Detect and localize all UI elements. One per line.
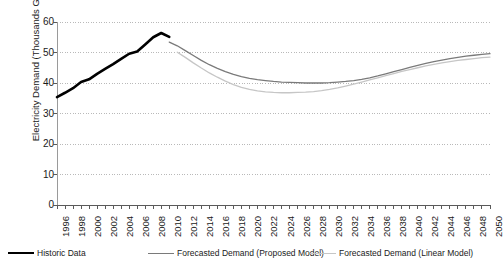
x-axis-tick-label: 2022 <box>269 216 279 237</box>
x-axis-tick-label: 2032 <box>350 216 360 237</box>
x-axis-tick-label: 2050 <box>494 216 504 237</box>
legend-item: Historic Data <box>8 246 86 260</box>
x-axis-tick-label: 2006 <box>141 216 151 237</box>
x-axis-tick-label: 2012 <box>189 216 199 237</box>
chart-legend: Historic DataForecasted Demand (Proposed… <box>0 246 497 264</box>
x-axis-tick-label: 2008 <box>157 216 167 237</box>
x-axis-tick-label: 2048 <box>478 216 488 237</box>
x-axis-tick-label: 2010 <box>173 216 183 237</box>
x-axis-tick-label: 2030 <box>334 216 344 237</box>
x-axis-tick-label: 1998 <box>77 216 87 237</box>
x-axis-tick-label: 1996 <box>61 216 71 237</box>
x-axis-tick-label: 2036 <box>382 216 392 237</box>
legend-label: Historic Data <box>37 248 86 258</box>
x-axis-tick-label: 2042 <box>430 216 440 237</box>
x-axis-tick-label: 2000 <box>93 216 103 237</box>
x-axis-tick-label: 2028 <box>318 216 328 237</box>
x-axis-tick-label: 2034 <box>366 216 376 237</box>
x-axis-tick-label: 2046 <box>462 216 472 237</box>
x-axis-tick-label: 2016 <box>221 216 231 237</box>
legend-label: Forecasted Demand (Proposed Model) <box>177 248 324 258</box>
x-axis-tick-label: 2002 <box>109 216 119 237</box>
legend-label: Forecasted Demand (Linear Model) <box>339 248 473 258</box>
x-axis-tick-label: 2014 <box>205 216 215 237</box>
x-axis-tick-label: 2004 <box>125 216 135 237</box>
x-axis-tick-label: 2024 <box>286 216 296 237</box>
x-axis-tick-label: 2026 <box>302 216 312 237</box>
x-axis-tick-label: 2020 <box>253 216 263 237</box>
x-axis-tick-label: 2040 <box>414 216 424 237</box>
legend-line-swatch <box>8 252 34 254</box>
legend-line-swatch <box>310 253 336 254</box>
legend-item: Forecasted Demand (Proposed Model) <box>148 246 324 260</box>
legend-item: Forecasted Demand (Linear Model) <box>310 246 473 260</box>
x-axis-tick-label: 2044 <box>446 216 456 237</box>
x-axis-tick-label: 2038 <box>398 216 408 237</box>
legend-line-swatch <box>148 253 174 254</box>
x-axis-tick-label: 2018 <box>237 216 247 237</box>
